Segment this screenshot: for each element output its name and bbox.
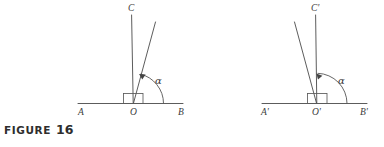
angle-arrowhead-right (316, 73, 322, 79)
label-point-b: B (178, 108, 184, 118)
slanted-ray-left (133, 22, 155, 104)
figure-16-container: A O B C α A' O' B' C' α FIGURE16 (0, 0, 384, 147)
label-point-o: O (130, 108, 137, 118)
slanted-ray-right (295, 22, 317, 104)
diagram-right (262, 15, 367, 104)
figure-caption-number: 16 (56, 122, 73, 137)
figure-caption: FIGURE16 (4, 124, 74, 137)
right-angle-box-right (308, 94, 328, 104)
vertical-ray-oc-prime (316, 15, 317, 104)
label-angle-alpha-left: α (155, 76, 162, 86)
vertical-ray-oc (132, 15, 134, 104)
label-point-c-prime: C' (311, 4, 319, 14)
label-point-a: A (78, 108, 84, 118)
label-point-a-prime: A' (261, 108, 269, 118)
label-point-o-prime: O' (312, 108, 321, 118)
label-point-c: C (128, 4, 134, 14)
diagram-left (78, 15, 183, 104)
label-angle-alpha-right: α (338, 76, 345, 86)
figure-caption-word: FIGURE (4, 124, 51, 136)
label-point-b-prime: B' (360, 108, 368, 118)
